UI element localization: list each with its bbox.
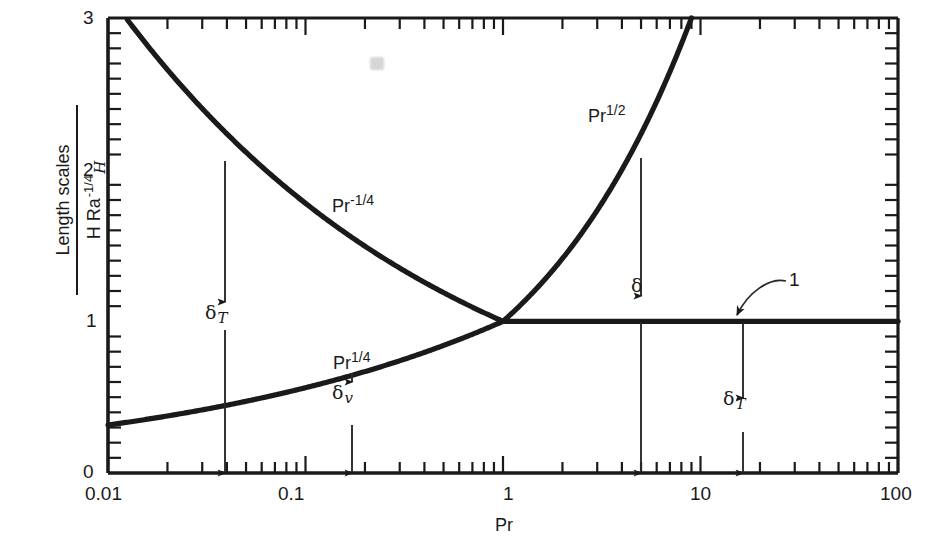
curve-label-pr-minus-quarter-exp: -1/4 — [350, 192, 374, 208]
curve-label-pr-half-exp: 1/2 — [606, 102, 625, 118]
y-axis-title-denominator-base: H Ra — [84, 198, 104, 239]
curve-label-pr-minus-quarter: Pr-1/4 — [332, 193, 374, 215]
curve-label-pr-half: Pr1/2 — [588, 103, 625, 125]
annotation-delta-v: δv — [332, 383, 353, 406]
y-axis-title: Length scales H Ra-1/4H — [49, 105, 113, 295]
annotation-delta-v-symbol: δ — [332, 381, 343, 403]
annotation-delta-T-left-subscript: T — [217, 309, 227, 327]
curve-label-pr-minus-quarter-base: Pr — [332, 196, 350, 216]
curve-label-pr-quarter-exp: 1/4 — [351, 349, 370, 365]
annotation-delta-T-right-symbol: δ — [723, 387, 734, 409]
curve-pr-half — [503, 18, 691, 321]
curve-label-pr-half-base: Pr — [588, 106, 606, 126]
annotation-delta-T-left-symbol: δ — [205, 301, 216, 323]
y-tick-label-1: 1 — [86, 311, 97, 330]
callout-arrow-unity — [737, 280, 786, 315]
annotation-delta-T-left: δT — [205, 303, 227, 326]
y-axis-title-numerator: Length scales — [53, 140, 76, 259]
y-axis-ticks-right — [885, 33, 898, 458]
curve-pr-quarter — [108, 321, 503, 425]
y-tick-label-2: 2 — [83, 160, 94, 179]
scan-artifact — [370, 57, 384, 70]
x-tick-label-0.01: 0.01 — [85, 484, 122, 503]
curve-pr-minus-quarter — [127, 20, 503, 322]
x-tick-label-100: 100 — [880, 484, 912, 503]
data-curves — [108, 18, 898, 425]
curve-label-pr-quarter: Pr1/4 — [333, 350, 370, 372]
annotation-delta: δ — [631, 276, 642, 295]
x-tick-label-10: 10 — [690, 484, 711, 503]
x-axis-ticks-bottom — [167, 456, 898, 473]
x-tick-label-0.1: 0.1 — [278, 484, 304, 503]
x-axis-ticks-top — [167, 18, 898, 35]
y-tick-label-0: 0 — [83, 462, 94, 481]
y-tick-label-3: 3 — [83, 8, 94, 27]
curve-label-pr-quarter-base: Pr — [333, 353, 351, 373]
annotation-delta-T-right-subscript: T — [735, 395, 745, 413]
figure-container: Length scales H Ra-1/4H 3 2 1 0 0.01 0.1… — [0, 0, 928, 544]
annotation-unity-callout: 1 — [789, 270, 800, 289]
annotation-delta-v-subscript: v — [344, 389, 352, 407]
annotation-delta-T-right: δT — [723, 389, 745, 412]
annotation-delta-symbol: δ — [631, 274, 642, 296]
x-axis-title: Pr — [495, 516, 513, 534]
x-tick-label-1: 1 — [503, 484, 514, 503]
